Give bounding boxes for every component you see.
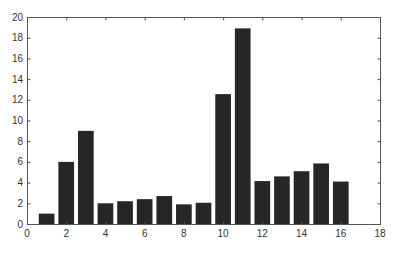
x-tick-label: 4	[103, 228, 109, 239]
bar-15	[313, 163, 329, 224]
y-tick-label: 4	[17, 177, 23, 188]
y-tick-label: 2	[17, 198, 23, 209]
bar-6	[137, 199, 153, 224]
x-tick-label: 16	[335, 228, 347, 239]
bars	[39, 28, 349, 224]
y-tick-label: 8	[17, 136, 23, 147]
y-tick-label: 20	[12, 12, 24, 23]
bar-4	[98, 203, 114, 224]
x-tick-label: 2	[63, 228, 69, 239]
bar-16	[333, 182, 349, 224]
x-tick-label: 6	[142, 228, 148, 239]
bar-7	[156, 196, 172, 224]
bar-13	[274, 176, 290, 224]
y-tick-label: 12	[12, 94, 24, 105]
bar-14	[294, 171, 310, 224]
y-tick-label: 18	[12, 32, 24, 43]
y-tick-label: 0	[17, 219, 23, 230]
bar-8	[176, 204, 192, 224]
bar-11	[235, 28, 251, 224]
bar-chart: 024681012141618 02468101214161820	[0, 0, 396, 253]
bar-2	[58, 162, 74, 224]
x-tick-label: 12	[257, 228, 269, 239]
x-tick-label: 14	[296, 228, 308, 239]
bar-10	[215, 94, 231, 224]
y-tick-label: 16	[12, 53, 24, 64]
bar-3	[78, 131, 94, 224]
bar-5	[117, 201, 133, 224]
x-tick-label: 0	[24, 228, 30, 239]
x-tick-label: 8	[181, 228, 187, 239]
x-tick-label: 18	[374, 228, 386, 239]
bar-1	[39, 214, 55, 224]
bar-9	[196, 203, 212, 224]
bar-12	[254, 181, 270, 224]
y-tick-label: 6	[17, 156, 23, 167]
x-tick-label: 10	[218, 228, 230, 239]
y-tick-label: 10	[12, 115, 24, 126]
y-tick-label: 14	[12, 74, 24, 85]
